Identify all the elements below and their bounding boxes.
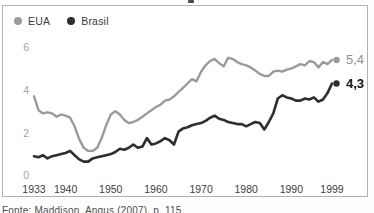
scanned-chart-page: EUA Brasil 02461933194019501960197019801… <box>0 0 374 213</box>
x-tick-label: 1940 <box>54 183 78 195</box>
y-tick-label: 6 <box>23 41 29 53</box>
line-plot: 0246193319401950196019701980199019995,44… <box>0 0 374 213</box>
x-tick-label: 1970 <box>189 183 213 195</box>
x-tick-label: 1960 <box>144 183 168 195</box>
x-tick-label: 1980 <box>235 183 259 195</box>
brasil-line <box>34 84 332 162</box>
source-caption: Fonte: Maddison, Angus (2007), p. 115 <box>2 205 182 213</box>
eua-line <box>34 58 332 151</box>
x-tick-label: 1933 <box>22 183 46 195</box>
x-tick-label: 1990 <box>280 183 304 195</box>
eua-end-value: 5,4 <box>346 52 364 67</box>
y-tick-label: 4 <box>23 84 29 96</box>
y-tick-label: 0 <box>23 169 29 181</box>
y-tick-label: 2 <box>23 127 29 139</box>
brasil-end-dot <box>333 80 339 86</box>
x-tick-label: 1950 <box>99 183 123 195</box>
brasil-end-value: 4,3 <box>346 76 364 91</box>
x-tick-label: 1999 <box>320 183 344 195</box>
eua-end-dot <box>333 57 339 63</box>
